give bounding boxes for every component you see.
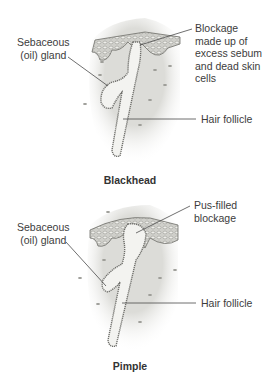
pimple-caption: Pimple [90, 360, 170, 372]
label-line: Sebaceous [17, 36, 70, 49]
blackhead-caption: Blackhead [90, 174, 170, 186]
label-line: and dead skin [195, 60, 262, 73]
blackhead-follicle-label: Hair follicle [201, 113, 252, 126]
label-line: made up of [195, 35, 262, 48]
label-line: Pus-filled [194, 199, 237, 212]
label-line: blockage [194, 212, 237, 225]
blackhead-diagram: Sebaceous (oil) gland Blockage made up o… [0, 0, 264, 190]
blackhead-blockage-label: Blockage made up of excess sebum and dea… [195, 22, 262, 85]
label-line: Sebaceous [17, 221, 70, 234]
pimple-diagram: Sebaceous (oil) gland Pus-filled blockag… [0, 190, 264, 382]
label-line: (oil) gland [17, 49, 70, 62]
label-line: excess sebum [195, 47, 262, 60]
pimple-gland-label: Sebaceous (oil) gland [17, 221, 70, 246]
pimple-follicle-label: Hair follicle [201, 297, 252, 310]
label-line: Blockage [195, 22, 262, 35]
pimple-blockage-label: Pus-filled blockage [194, 199, 237, 224]
label-line: (oil) gland [17, 234, 70, 247]
label-line: cells [195, 72, 262, 85]
blackhead-gland-label: Sebaceous (oil) gland [17, 36, 70, 61]
